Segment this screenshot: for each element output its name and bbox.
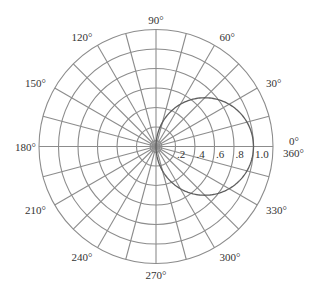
grid-spoke <box>156 147 215 248</box>
radial-tick-label: 1.0 <box>255 148 269 160</box>
angle-label-360: 360° <box>283 147 304 159</box>
grid-spoke <box>156 64 239 147</box>
radial-tick-labels: .2.4.6.81.0 <box>177 148 269 160</box>
grid-spoke <box>98 147 157 248</box>
angle-label-90: 90° <box>148 14 163 26</box>
polar-chart: .2.4.6.81.0 0°360°30°60°90°120°150°180°2… <box>0 0 309 291</box>
grid-spoke <box>98 45 157 146</box>
radial-tick-label: .6 <box>216 148 225 160</box>
grid-spoke <box>156 45 215 146</box>
radial-tick-label: .2 <box>177 148 185 160</box>
angle-label-120: 120° <box>72 31 93 43</box>
angle-label-60: 60° <box>220 31 235 43</box>
radial-tick-label: .8 <box>236 148 245 160</box>
radial-tick-label: .4 <box>197 148 206 160</box>
grid-spoke <box>55 88 156 147</box>
angle-label-30: 30° <box>266 77 281 89</box>
angle-label-240: 240° <box>72 251 93 263</box>
grid-spoke <box>156 88 257 147</box>
angle-label-150: 150° <box>25 77 46 89</box>
grid-spoke <box>55 147 156 206</box>
grid-spoke <box>73 147 156 230</box>
angle-label-270: 270° <box>146 269 167 281</box>
grid-spoke <box>73 64 156 147</box>
angle-label-210: 210° <box>25 204 46 216</box>
angle-label-180: 180° <box>15 141 36 153</box>
angle-label-300: 300° <box>220 251 241 263</box>
angle-label-330: 330° <box>266 204 287 216</box>
angle-label-0: 0° <box>289 135 299 147</box>
